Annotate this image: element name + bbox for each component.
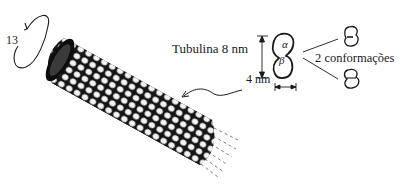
protofilament-count-label: 13 — [6, 34, 18, 46]
tubulin-leader-line — [184, 89, 242, 96]
rotation-arrow-icon — [14, 15, 48, 68]
conformations-label: 2 conformações — [315, 52, 394, 65]
width-dimension — [275, 83, 296, 91]
conformation-curved-icon — [345, 27, 358, 47]
alpha-subunit-label: α — [282, 39, 288, 50]
diagram-artwork — [0, 0, 406, 186]
width-label: 4 nm — [246, 73, 270, 85]
tubulin-label: Tubulina 8 nm — [172, 42, 248, 55]
conformation-straight-icon — [344, 69, 358, 88]
microtubule-diagram: 13 Tubulina 8 nm α β 4 nm 2 conformações — [0, 0, 406, 186]
beta-subunit-label: β — [279, 55, 284, 66]
